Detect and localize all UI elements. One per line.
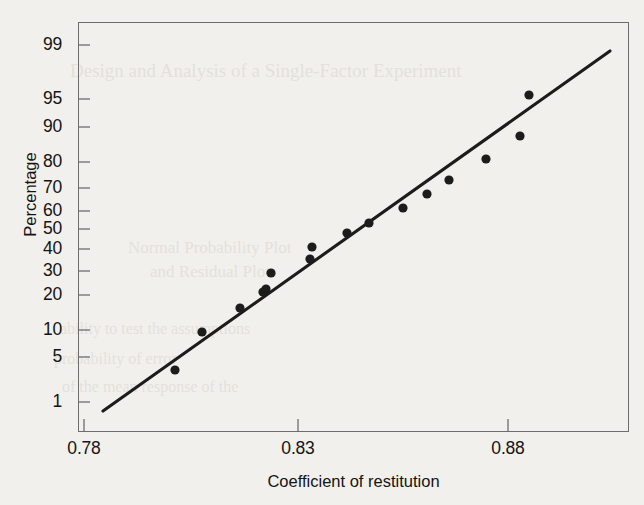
y-tick-label: 10	[0, 321, 70, 339]
x-tick-label: 0.83	[258, 440, 338, 458]
y-tick-label: 5	[0, 348, 70, 366]
x-axis-title: Coefficient of restitution	[78, 472, 629, 491]
y-tick-label: 20	[0, 286, 70, 304]
y-tick-label: 90	[0, 118, 70, 136]
y-tick-label: 1	[0, 393, 70, 411]
y-tick-label: 30	[0, 262, 70, 280]
y-axis-title: Percentage	[21, 135, 40, 255]
plot-frame	[78, 22, 629, 432]
y-tick-label: 95	[0, 90, 70, 108]
normal-probability-plot-figure: 999590807060504030201051 0.780.830.88 Pe…	[0, 0, 644, 505]
x-tick-label: 0.78	[44, 440, 124, 458]
y-tick-label: 99	[0, 36, 70, 54]
x-tick-label: 0.88	[468, 440, 548, 458]
